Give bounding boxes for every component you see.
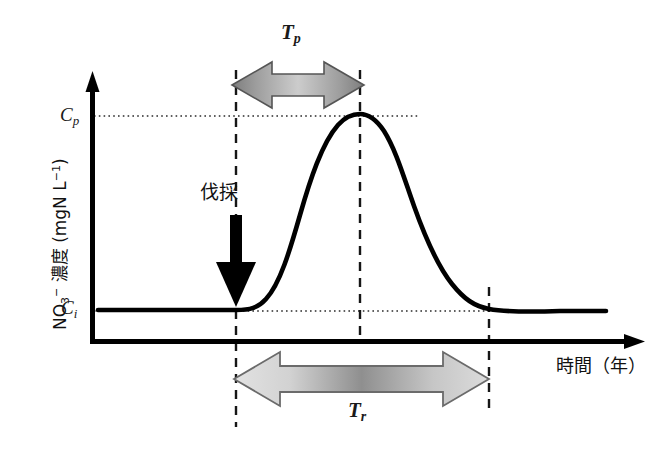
y-axis-arrowhead <box>86 71 100 92</box>
figure-canvas <box>0 0 661 453</box>
y-axis-unit-sup: −1 <box>50 165 63 181</box>
y-tick-ci-base: C <box>61 297 74 318</box>
y-tick-ci-sub: i <box>74 306 78 321</box>
y-tick-cp-sub: p <box>73 113 80 128</box>
tr-label-sub: r <box>361 409 366 424</box>
y-tick-label-cp: Cp <box>60 105 79 127</box>
y-tick-label-ci: Ci <box>61 298 77 320</box>
tp-interval-label: Tp <box>281 22 301 46</box>
y-axis-species-sup: − <box>50 288 63 297</box>
y-tick-cp-base: C <box>60 104 73 125</box>
tr-interval-arrow <box>234 352 489 406</box>
tp-label-sub: p <box>294 31 301 46</box>
y-axis-rest-pre: 濃度 (mgN L <box>50 181 70 287</box>
response-curve <box>98 114 606 312</box>
x-axis-arrowhead <box>624 334 645 349</box>
felling-arrow <box>216 215 256 307</box>
figure-container: NO3− 濃度 (mgN L−1) 時間（年） Cp Ci Tp Tr 伐採 <box>0 0 661 453</box>
y-axis-title: NO3− 濃度 (mgN L−1) <box>46 30 72 330</box>
tp-label-base: T <box>281 20 294 44</box>
x-axis-title: 時間（年） <box>556 357 646 375</box>
tp-interval-arrow <box>232 62 364 108</box>
tr-label-base: T <box>348 398 361 422</box>
tr-interval-label: Tr <box>348 400 366 424</box>
y-axis-rest-post: ) <box>50 158 70 165</box>
felling-event-label: 伐採 <box>200 183 238 202</box>
